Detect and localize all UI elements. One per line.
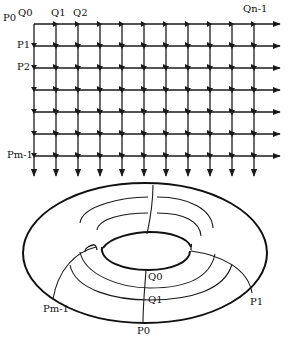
torus-back-ring-outer-right <box>157 197 213 228</box>
torus-back-ring-outer-left <box>80 197 148 223</box>
torus-outer-rim <box>23 183 267 323</box>
row-label-p0: P0 <box>3 12 16 23</box>
mesh-grid <box>31 21 280 176</box>
torus: Q0 Q1 P0 P1 Pm-1 <box>23 183 267 336</box>
col-label-q0: Q0 <box>18 7 33 18</box>
torus-meridian-pm-1 <box>53 247 96 299</box>
col-label-qn-1: Qn-1 <box>243 3 267 14</box>
torus-hole-back <box>103 232 191 248</box>
row-label-p2: P2 <box>17 61 30 72</box>
torus-back-meridian <box>147 185 153 234</box>
torus-meridian-p1 <box>191 251 252 293</box>
torus-meridian-p0 <box>143 270 146 323</box>
torus-label-q0: Q0 <box>148 271 163 282</box>
row-label-p1: P1 <box>17 39 30 50</box>
torus-label-q1: Q1 <box>148 294 163 305</box>
torus-label-pm-1: Pm-1 <box>43 303 69 314</box>
col-label-q1: Q1 <box>51 7 66 18</box>
torus-back-ring-inner-left <box>97 213 148 230</box>
torus-label-p1: P1 <box>250 296 263 307</box>
col-label-q2: Q2 <box>73 7 88 18</box>
torus-hole-front <box>102 247 190 270</box>
torus-label-p0: P0 <box>137 325 150 336</box>
mesh-to-torus-diagram: P0 Q0 Q1 Q2 Qn-1 P1 P2 Pm-1 Q0 <box>0 0 289 341</box>
row-label-pm-1: Pm-1 <box>7 149 33 160</box>
